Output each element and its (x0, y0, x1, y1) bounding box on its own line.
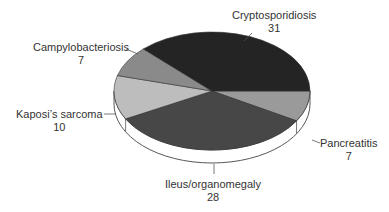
label-cryptosporidiosis: Cryptosporidiosis 31 (232, 9, 316, 35)
label-value: 7 (320, 150, 377, 163)
label-pancreatitis: Pancreatitis 7 (320, 137, 377, 163)
label-value: 10 (16, 121, 103, 134)
leader-line-pancreatitis (312, 140, 320, 143)
label-name: Pancreatitis (320, 137, 377, 150)
pie-slices (114, 32, 310, 150)
label-ileus-organomegaly: Ileus/organomegaly 28 (165, 178, 261, 204)
label-name: Campylobacteriosis (33, 41, 129, 54)
label-value: 28 (165, 191, 261, 204)
label-kaposis-sarcoma: Kaposi’s sarcoma 10 (16, 108, 103, 134)
label-value: 31 (232, 22, 316, 35)
label-name: Kaposi’s sarcoma (16, 108, 103, 121)
label-value: 7 (33, 54, 129, 67)
label-name: Ileus/organomegaly (165, 178, 261, 191)
label-name: Cryptosporidiosis (232, 9, 316, 22)
label-campylobacteriosis: Campylobacteriosis 7 (33, 41, 129, 67)
